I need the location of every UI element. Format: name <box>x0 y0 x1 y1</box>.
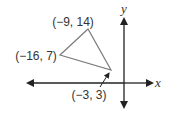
vertex-label-a: (−9, 14) <box>52 15 94 29</box>
coordinate-diagram: x y (−9, 14) (−16, 7) (−3, 3) <box>0 0 182 115</box>
vertex-label-c: (−3, 3) <box>71 88 106 102</box>
vertex-label-b: (−16, 7) <box>15 49 57 63</box>
triangle <box>60 29 111 70</box>
leader-arrow-icon <box>100 73 109 87</box>
y-axis-label: y <box>119 1 127 16</box>
x-axis-label: x <box>154 75 161 90</box>
